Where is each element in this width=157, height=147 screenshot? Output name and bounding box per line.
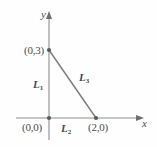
segment-l2-name: L bbox=[61, 122, 68, 134]
y-axis-label: y bbox=[41, 9, 46, 20]
segment-l2-index: 2 bbox=[68, 128, 72, 136]
point-marker-0-0 bbox=[47, 116, 51, 120]
segment-l3-index: 3 bbox=[86, 77, 90, 85]
math-figure: y x (0,3) (0,0) (2,0) L1 L2 L3 bbox=[0, 0, 157, 147]
point-label-0-3: (0,3) bbox=[24, 45, 44, 56]
x-axis-label: x bbox=[142, 118, 147, 129]
point-label-0-0: (0,0) bbox=[22, 122, 42, 133]
segment-label-l3: L3 bbox=[79, 72, 89, 83]
segment-label-l2: L2 bbox=[61, 123, 71, 134]
segment-label-l1: L1 bbox=[33, 79, 43, 90]
segment-l3-name: L bbox=[79, 71, 86, 83]
point-label-2-0: (2,0) bbox=[88, 122, 108, 133]
segment-l1-index: 1 bbox=[40, 84, 44, 92]
segment-l1-name: L bbox=[33, 78, 40, 90]
y-axis-arrowhead bbox=[46, 11, 52, 19]
point-marker-2-0 bbox=[94, 116, 98, 120]
point-marker-0-3 bbox=[47, 48, 51, 52]
